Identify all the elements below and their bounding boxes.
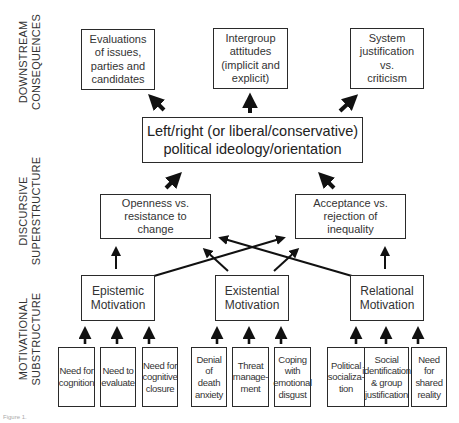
figure-caption: Figure 1. (3, 414, 27, 420)
layer-label-discursive: DISCURSIVE SUPERSTRUCTURE (17, 154, 45, 268)
consequence-evaluations: Evaluations of issues, parties and candi… (81, 29, 155, 90)
need-label: Need to evaluate (101, 365, 135, 388)
need-political-socialization: Political socializa- tion (327, 347, 365, 407)
arrow-relational-to-openness (221, 238, 352, 276)
arrow-acceptance-to-ideology (322, 176, 334, 188)
motivation-relational: Relational Motivation (350, 275, 424, 321)
need-denial-death-anxiety: Denial of death anxiety (191, 347, 227, 407)
need-label: Coping with emotional disgust (273, 354, 312, 400)
motivation-label: Existential Motivation (225, 284, 280, 313)
motivation-label: Relational Motivation (360, 284, 415, 313)
consequence-system: System justification vs. criticism (350, 28, 424, 89)
motivation-epistemic: Epistemic Motivation (81, 275, 155, 321)
arrow-existential-to-acceptance (274, 250, 297, 271)
ideology-label: Left/right (or liberal/conservative) pol… (147, 122, 358, 158)
need-label: Denial of death anxiety (192, 354, 226, 400)
arrow-to-system (340, 98, 354, 111)
need-label: Social identification & group justificat… (362, 354, 411, 400)
consequence-intergroup: Intergroup attitudes (implicit and expli… (213, 28, 288, 89)
need-label: Political socializa- tion (328, 360, 365, 395)
need-cognitive-closure: Need for cognitive closure (142, 347, 178, 407)
motivation-existential: Existential Motivation (215, 275, 289, 321)
consequence-label: Intergroup attitudes (implicit and expli… (221, 32, 280, 85)
superstructure-label: Acceptance vs. rejection of inequality (313, 197, 388, 237)
need-label: Threat manage- ment (233, 360, 268, 395)
need-label: Need for shared reality (412, 354, 446, 400)
need-label: Need for cognition (59, 365, 94, 388)
arrow-to-evaluations (152, 98, 164, 110)
layer-label-motivational: MOTIVATIONAL SUBSTRUCTURE (17, 282, 45, 396)
consequence-label: System justification vs. criticism (360, 32, 414, 85)
superstructure-acceptance: Acceptance vs. rejection of inequality (295, 194, 406, 239)
need-evaluate: Need to evaluate (100, 347, 136, 407)
superstructure-openness: Openness vs. resistance to change (100, 194, 211, 239)
need-threat-management: Threat manage- ment (232, 347, 269, 407)
consequence-label: Evaluations of issues, parties and candi… (90, 33, 147, 86)
need-shared-reality: Need for shared reality (411, 347, 447, 407)
need-social-identification: Social identification & group justificat… (364, 347, 409, 407)
need-coping-disgust: Coping with emotional disgust (274, 347, 311, 407)
layer-label-downstream: DOWNSTREAM CONSEQUENCES (17, 12, 45, 112)
need-label: Need for cognitive closure (143, 360, 178, 395)
motivation-label: Epistemic Motivation (91, 284, 146, 313)
arrow-openness-to-ideology (166, 176, 178, 188)
ideology-box: Left/right (or liberal/conservative) pol… (142, 117, 363, 163)
arrow-epistemic-to-acceptance (154, 238, 283, 276)
need-cognition: Need for cognition (58, 347, 95, 407)
superstructure-label: Openness vs. resistance to change (122, 197, 189, 237)
